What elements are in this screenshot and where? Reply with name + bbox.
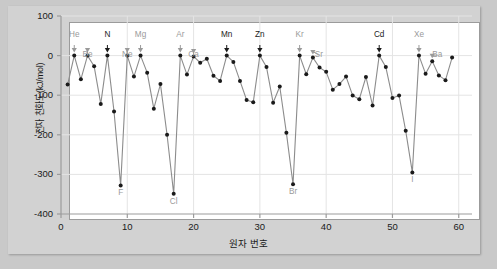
element-label-ne: Ne [122, 50, 132, 59]
element-label-be: Be [83, 50, 93, 59]
data-point [304, 72, 308, 76]
element-label-f: F [118, 188, 123, 197]
x-axis-tick-label: 60 [439, 221, 479, 232]
annotation-arrow-head [416, 48, 421, 53]
data-point [145, 71, 149, 75]
x-axis-tick-label: 10 [107, 221, 147, 232]
data-point [66, 83, 70, 87]
chart-canvas [8, 6, 480, 254]
x-axis-label: 원자 번호 [0, 236, 497, 250]
element-label-sr: Sr [315, 50, 323, 59]
data-point [384, 65, 388, 69]
data-point [371, 103, 375, 107]
annotation-arrow-head [178, 48, 183, 53]
element-label-kr: Kr [296, 30, 304, 39]
data-point [410, 170, 414, 174]
data-point [437, 73, 441, 77]
data-point [218, 79, 222, 83]
data-point [238, 79, 242, 83]
element-label-i: I [411, 175, 413, 184]
element-label-xe: Xe [414, 30, 424, 39]
data-point [397, 94, 401, 98]
data-point [291, 182, 295, 186]
data-point [251, 100, 255, 104]
data-point [337, 82, 341, 86]
y-axis-tick-label: -100 [13, 89, 53, 100]
data-point [185, 73, 189, 77]
data-point [331, 88, 335, 92]
data-point [404, 129, 408, 133]
data-point [271, 101, 275, 105]
data-point [158, 82, 162, 86]
data-point [165, 133, 169, 137]
x-axis-tick-label: 20 [174, 221, 214, 232]
chart-figure: 전자 친화도(kJ/mol) 1000-100-200-300-40001020… [0, 0, 497, 269]
y-axis-tick-label: 100 [13, 10, 53, 21]
data-point [298, 54, 302, 58]
data-point [318, 65, 322, 69]
annotation-arrow-head [105, 48, 110, 53]
data-point [198, 61, 202, 65]
data-point [152, 107, 156, 111]
data-point [351, 94, 355, 98]
element-label-he: He [69, 30, 79, 39]
data-point [390, 96, 394, 100]
x-axis-tick-label: 30 [240, 221, 280, 232]
element-label-ca: Ca [188, 50, 198, 59]
element-label-mn: Mn [221, 30, 232, 39]
data-point [324, 70, 328, 74]
data-point [357, 97, 361, 101]
annotation-arrow-head [138, 48, 143, 53]
data-point [450, 56, 454, 60]
data-point [211, 74, 215, 78]
data-point [72, 54, 76, 58]
annotation-arrow-head [297, 48, 302, 53]
x-axis-tick-label: 40 [306, 221, 346, 232]
element-label-br: Br [289, 187, 297, 196]
y-axis-tick-label: -300 [13, 168, 53, 179]
data-point [112, 109, 116, 113]
data-point [99, 102, 103, 106]
x-axis-tick-label: 0 [41, 221, 81, 232]
annotation-arrow-head [224, 48, 229, 53]
element-label-mg: Mg [135, 30, 146, 39]
data-point [92, 64, 96, 68]
annotation-arrow-head [377, 48, 382, 53]
element-label-ba: Ba [432, 50, 442, 59]
data-point [430, 59, 434, 63]
data-point [178, 54, 182, 58]
data-point [205, 57, 209, 61]
chart-figure-inner: 전자 친화도(kJ/mol) 1000-100-200-300-40001020… [8, 6, 480, 254]
data-point [284, 131, 288, 135]
data-point [417, 54, 421, 58]
y-axis-tick-label: 0 [13, 50, 53, 61]
data-point [364, 75, 368, 79]
data-point [278, 84, 282, 88]
element-label-n: N [104, 30, 110, 39]
data-point [225, 54, 229, 58]
x-axis-tick-label: 50 [372, 221, 412, 232]
data-point [377, 54, 381, 58]
data-point [245, 98, 249, 102]
data-point [231, 60, 235, 64]
data-point [265, 65, 269, 69]
y-axis-tick-label: -200 [13, 129, 53, 140]
data-point [105, 54, 109, 58]
data-point [443, 78, 447, 82]
element-label-ar: Ar [176, 30, 184, 39]
data-point [424, 72, 428, 76]
data-point [79, 77, 83, 81]
data-point [119, 183, 123, 187]
element-label-zn: Zn [255, 30, 265, 39]
data-point [139, 54, 143, 58]
annotation-arrow-head [257, 48, 262, 53]
data-point [344, 75, 348, 79]
data-point [132, 75, 136, 79]
data-point [258, 54, 262, 58]
y-axis-tick-label: -400 [13, 208, 53, 219]
data-point [172, 192, 176, 196]
annotation-arrow-head [72, 48, 77, 53]
element-label-cd: Cd [374, 30, 384, 39]
element-label-cl: Cl [170, 197, 178, 206]
